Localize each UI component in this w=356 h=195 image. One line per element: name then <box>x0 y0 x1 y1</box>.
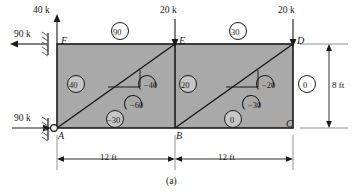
node-label-D: D <box>297 36 304 46</box>
value-member-force-ED: 30 <box>231 27 240 37</box>
value-member-force-AF: 40 <box>69 80 78 90</box>
support-A <box>42 117 57 141</box>
arrow-head-40k <box>54 14 61 22</box>
dim-arrow-down <box>326 121 332 128</box>
dim-arrow-AB-left <box>57 156 64 162</box>
load-label-20k-E: 20 k <box>160 6 177 16</box>
figure-caption: (a) <box>166 177 177 187</box>
dim-arrow-AB-right <box>168 156 175 162</box>
value-panel-right-upper: −20 <box>262 80 275 90</box>
dim-label-height: 8 ft <box>332 81 344 90</box>
value-member-force-FE: 90 <box>113 27 122 37</box>
load-label-90k-bottom: 90 k <box>14 114 31 124</box>
arrow-head-90k-top <box>10 41 18 48</box>
value-panel-left-mid: −60 <box>130 100 143 110</box>
value-panel-right-mid: −30 <box>248 100 261 110</box>
node-label-F: F <box>61 36 67 46</box>
dim-arrow-BC-left <box>175 156 182 162</box>
frame-diagram <box>0 0 356 195</box>
dim-label-span-AB: 12 ft <box>100 153 117 162</box>
node-label-C: C <box>286 119 293 129</box>
load-label-90k-top: 90 k <box>14 30 31 40</box>
value-panel-left-upper: −40 <box>144 80 157 90</box>
load-label-40k: 40 k <box>33 6 50 16</box>
value-member-force-BE: 20 <box>181 80 190 90</box>
dim-arrow-up <box>326 44 332 51</box>
value-panel-left-lower: −30 <box>107 115 120 125</box>
value-panel-right-lower: 0 <box>230 115 234 125</box>
load-label-20k-D: 20 k <box>278 6 295 16</box>
value-member-force-DC: 0 <box>303 80 307 90</box>
dim-label-span-BC: 12 ft <box>218 153 235 162</box>
dim-arrow-BC-right <box>286 156 293 162</box>
node-label-E: E <box>179 36 185 46</box>
node-label-A: A <box>58 131 64 141</box>
node-label-B: B <box>176 131 182 141</box>
